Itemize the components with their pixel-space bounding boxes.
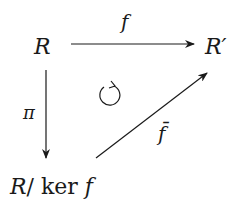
node-R: R (34, 36, 51, 58)
node-R-prime: R′ (205, 36, 227, 58)
label-pi: π (23, 104, 35, 122)
node-quotient: R/ ker f (10, 176, 93, 198)
commutes-cycle-icon (100, 81, 120, 105)
label-fbar: f̄ (158, 124, 165, 144)
label-f: f (121, 12, 128, 32)
arrow-fbar (96, 73, 207, 158)
quotient-ker: / ker (27, 174, 85, 199)
quotient-f: f (85, 174, 93, 199)
quotient-R: R (10, 174, 27, 199)
